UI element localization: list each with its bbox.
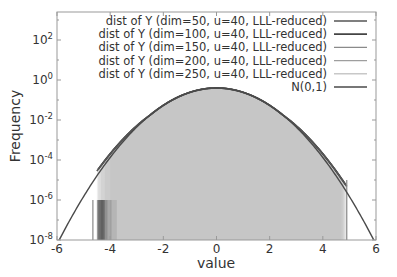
x-tick-label: 6 [372, 242, 380, 256]
x-tick-label: 2 [266, 242, 274, 256]
legend-label: dist of Y (dim=150, u=40, LLL-reduced) [98, 40, 327, 54]
legend-label: dist of Y (dim=200, u=40, LLL-reduced) [98, 54, 327, 68]
x-tick-label: -2 [157, 242, 169, 256]
y-tick-label: 100 [32, 71, 53, 87]
y-tick-label: 10-4 [29, 151, 53, 167]
legend-label: dist of Y (dim=50, u=40, LLL-reduced) [106, 14, 327, 28]
legend-label: N(0,1) [291, 80, 327, 94]
x-tick-label: -4 [104, 242, 116, 256]
x-tick-label: -6 [51, 242, 63, 256]
y-tick-label: 102 [32, 31, 53, 47]
chart: -6-4-2024610210010-210-410-610-8 dist of… [0, 0, 397, 277]
legend-label: dist of Y (dim=250, u=40, LLL-reduced) [98, 67, 327, 81]
y-tick-label: 10-2 [29, 111, 53, 127]
x-tick-label: 0 [213, 242, 221, 256]
x-axis-label: value [197, 255, 235, 271]
y-axis-label: Frequency [7, 90, 23, 162]
legend-label: dist of Y (dim=100, u=40, LLL-reduced) [98, 27, 327, 41]
y-tick-label: 10-8 [29, 231, 53, 247]
x-tick-label: 4 [319, 242, 327, 256]
y-tick-label: 10-6 [29, 191, 53, 207]
